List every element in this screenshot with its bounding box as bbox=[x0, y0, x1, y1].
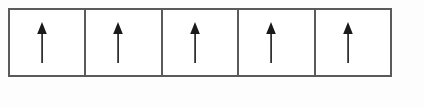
up-arrow-icon bbox=[342, 22, 354, 63]
spin-cell[interactable]: 1 bbox=[10, 10, 86, 75]
up-arrow-icon bbox=[189, 22, 201, 63]
spin-cell[interactable]: 5 bbox=[316, 10, 390, 75]
up-arrow-icon bbox=[112, 22, 124, 63]
up-arrow-icon bbox=[36, 22, 48, 63]
spin-cell[interactable]: 4 bbox=[239, 10, 315, 75]
spin-chain-diagram: 1 2 3 4 bbox=[8, 8, 392, 77]
spin-cell[interactable]: 2 bbox=[86, 10, 162, 75]
spin-cell[interactable]: 3 bbox=[163, 10, 239, 75]
up-arrow-icon bbox=[265, 22, 277, 63]
